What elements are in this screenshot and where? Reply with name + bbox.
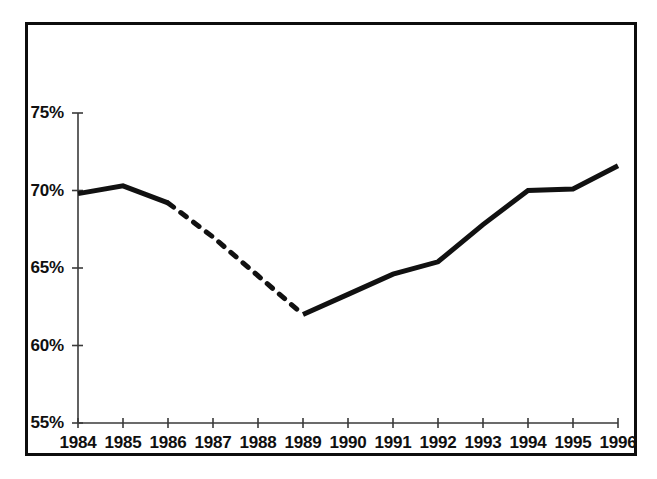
y-axis-tick-label: 70% xyxy=(0,181,64,201)
x-axis-tick-label: 1992 xyxy=(419,433,456,453)
x-axis-tick-label: 1987 xyxy=(194,433,231,453)
chart-figure: 55%60%65%70%75% 198419851986198719881989… xyxy=(0,0,657,479)
x-axis-tick-label: 1994 xyxy=(509,433,546,453)
y-axis-tick-label: 65% xyxy=(0,258,64,278)
x-axis-tick-label: 1991 xyxy=(374,433,411,453)
y-axis-tick-label: 60% xyxy=(0,336,64,356)
x-axis-tick-label: 1993 xyxy=(464,433,501,453)
x-axis-tick-label: 1996 xyxy=(599,433,636,453)
x-axis-tick-label: 1989 xyxy=(284,433,321,453)
x-axis-tick-label: 1995 xyxy=(554,433,591,453)
x-axis-tick-label: 1990 xyxy=(329,433,366,453)
y-axis-tick-label: 55% xyxy=(0,413,64,433)
x-axis-tick-label: 1985 xyxy=(104,433,141,453)
x-axis-tick-label: 1988 xyxy=(239,433,276,453)
x-axis-tick-label: 1986 xyxy=(149,433,186,453)
chart-frame-border xyxy=(25,22,637,456)
x-axis-tick-label: 1984 xyxy=(59,433,96,453)
y-axis-tick-label: 75% xyxy=(0,103,64,123)
